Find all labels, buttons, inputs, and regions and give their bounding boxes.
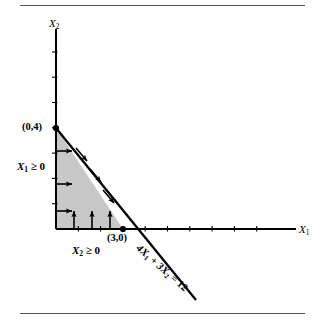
x-axis-label: X1 <box>299 224 309 235</box>
constraint-label-x1: X1 ≥ 0 <box>17 161 45 172</box>
feasible-region-shading <box>56 128 123 229</box>
y-axis-label: X2 <box>49 18 59 29</box>
figure-container: X2 X1 (0,4) (3,0) X1 ≥ 0 X2 ≥ 0 4X1 + 3X… <box>0 0 324 326</box>
constraint-label-x2: X2 ≥ 0 <box>72 245 100 256</box>
point-marker-0-4 <box>53 125 59 131</box>
point-label-x-intercept: (3,0) <box>107 233 127 244</box>
point-label-y-intercept: (0,4) <box>22 122 42 133</box>
